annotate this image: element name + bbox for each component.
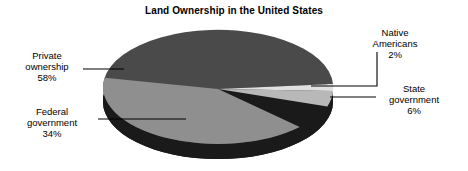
slice-label-value: 34%	[6, 128, 98, 139]
slice-label-value: 2%	[362, 49, 428, 60]
slice-label-line2: government	[6, 117, 98, 128]
slice-label-federal-government: Federal government 34%	[6, 106, 98, 139]
slice-label-private-ownership: Private ownership 58%	[12, 50, 82, 83]
slice-label-line1: State	[378, 83, 450, 94]
slice-label-line1: Private	[12, 50, 82, 61]
slice-label-line1: Native	[362, 27, 428, 38]
slice-label-value: 6%	[378, 105, 450, 116]
pie-slices	[103, 30, 333, 144]
slice-label-line1: Federal	[6, 106, 98, 117]
slice-label-line2: ownership	[12, 61, 82, 72]
slice-label-state-government: State government 6%	[378, 83, 450, 116]
slice-label-native-americans: Native Americans 2%	[362, 27, 428, 60]
slice-label-value: 58%	[12, 72, 82, 83]
slice-label-line2: government	[378, 94, 450, 105]
slice-label-line2: Americans	[362, 38, 428, 49]
pie-chart-figure: Land Ownership in the United States	[0, 0, 468, 171]
